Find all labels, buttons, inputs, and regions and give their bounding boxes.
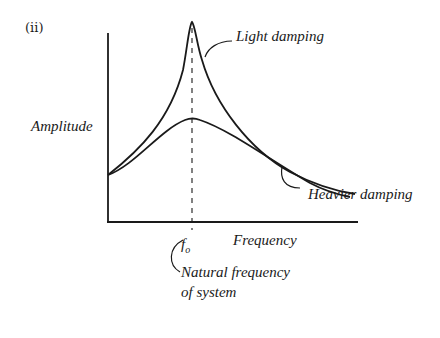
part-label: (ii) bbox=[25, 20, 43, 35]
natural-frequency-line2: of system bbox=[181, 282, 290, 302]
resonance-diagram: (ii) Amplitude Light damping Heavier dam… bbox=[0, 0, 440, 338]
light-damping-curve bbox=[108, 22, 355, 194]
f0-subscript: o bbox=[185, 244, 190, 255]
light-damping-leader bbox=[205, 41, 232, 57]
light-damping-label: Light damping bbox=[236, 28, 324, 45]
natural-frequency-symbol: fo bbox=[181, 236, 190, 255]
x-axis-label: Frequency bbox=[233, 232, 297, 249]
heavier-damping-label: Heavier damping bbox=[308, 186, 413, 203]
natural-frequency-line1: Natural frequency bbox=[181, 262, 290, 282]
natural-frequency-annotation: Natural frequency of system bbox=[181, 262, 290, 302]
heavier-damping-leader bbox=[282, 167, 300, 188]
y-axis-label: Amplitude bbox=[31, 118, 93, 135]
